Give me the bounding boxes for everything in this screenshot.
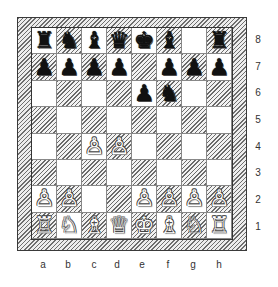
- square-a1[interactable]: ♖: [32, 213, 57, 239]
- square-g8[interactable]: [182, 28, 207, 54]
- chess-board: ♜♞♝♛♚♝♜♟♟♟♟♟♟♟♟♞♙♙♙♙♙♙♙♙♖♘♗♕♔♗♘♖: [31, 27, 233, 240]
- square-e6[interactable]: ♟: [132, 81, 157, 107]
- white-rook-icon[interactable]: ♖: [209, 213, 230, 236]
- white-pawn-icon[interactable]: ♙: [184, 187, 205, 210]
- rank-label-3: 3: [252, 167, 264, 178]
- square-b7[interactable]: ♟: [57, 54, 82, 80]
- square-f7[interactable]: ♟: [157, 54, 182, 80]
- black-rook-icon[interactable]: ♜: [209, 29, 230, 52]
- square-d2[interactable]: [107, 186, 132, 212]
- square-d5[interactable]: [107, 107, 132, 133]
- white-knight-icon[interactable]: ♘: [59, 213, 80, 236]
- white-pawn-icon[interactable]: ♙: [209, 187, 230, 210]
- square-g5[interactable]: [182, 107, 207, 133]
- black-knight-icon[interactable]: ♞: [159, 81, 180, 104]
- square-b6[interactable]: [57, 81, 82, 107]
- black-king-icon[interactable]: ♚: [134, 29, 155, 52]
- square-e7[interactable]: [132, 54, 157, 80]
- square-c4[interactable]: ♙: [82, 134, 107, 160]
- square-f6[interactable]: ♞: [157, 81, 182, 107]
- square-b2[interactable]: ♙: [57, 186, 82, 212]
- square-f2[interactable]: ♙: [157, 186, 182, 212]
- white-pawn-icon[interactable]: ♙: [109, 134, 130, 157]
- black-pawn-icon[interactable]: ♟: [84, 55, 105, 78]
- square-c1[interactable]: ♗: [82, 213, 107, 239]
- square-h8[interactable]: ♜: [207, 28, 232, 54]
- square-e2[interactable]: ♙: [132, 186, 157, 212]
- square-g6[interactable]: [182, 81, 207, 107]
- square-d8[interactable]: ♛: [107, 28, 132, 54]
- square-c6[interactable]: [82, 81, 107, 107]
- square-d6[interactable]: [107, 81, 132, 107]
- black-pawn-icon[interactable]: ♟: [134, 81, 155, 104]
- square-a6[interactable]: [32, 81, 57, 107]
- square-b8[interactable]: ♞: [57, 28, 82, 54]
- square-e1[interactable]: ♔: [132, 213, 157, 239]
- black-bishop-icon[interactable]: ♝: [159, 29, 180, 52]
- black-pawn-icon[interactable]: ♟: [109, 55, 130, 78]
- square-a8[interactable]: ♜: [32, 28, 57, 54]
- square-d3[interactable]: [107, 160, 132, 186]
- black-bishop-icon[interactable]: ♝: [84, 29, 105, 52]
- white-bishop-icon[interactable]: ♗: [84, 213, 105, 236]
- square-a5[interactable]: [32, 107, 57, 133]
- white-pawn-icon[interactable]: ♙: [134, 187, 155, 210]
- square-a2[interactable]: ♙: [32, 186, 57, 212]
- rank-label-1: 1: [252, 221, 264, 232]
- square-f8[interactable]: ♝: [157, 28, 182, 54]
- square-e8[interactable]: ♚: [132, 28, 157, 54]
- white-king-icon[interactable]: ♔: [134, 213, 155, 236]
- square-b1[interactable]: ♘: [57, 213, 82, 239]
- square-h4[interactable]: [207, 134, 232, 160]
- square-a3[interactable]: [32, 160, 57, 186]
- square-f4[interactable]: [157, 134, 182, 160]
- square-h6[interactable]: [207, 81, 232, 107]
- black-pawn-icon[interactable]: ♟: [34, 55, 55, 78]
- square-g2[interactable]: ♙: [182, 186, 207, 212]
- square-b3[interactable]: [57, 160, 82, 186]
- square-e5[interactable]: [132, 107, 157, 133]
- white-rook-icon[interactable]: ♖: [34, 213, 55, 236]
- square-h7[interactable]: ♟: [207, 54, 232, 80]
- black-knight-icon[interactable]: ♞: [59, 29, 80, 52]
- square-h2[interactable]: ♙: [207, 186, 232, 212]
- square-f1[interactable]: ♗: [157, 213, 182, 239]
- square-f5[interactable]: [157, 107, 182, 133]
- black-rook-icon[interactable]: ♜: [34, 29, 55, 52]
- black-pawn-icon[interactable]: ♟: [209, 55, 230, 78]
- white-queen-icon[interactable]: ♕: [109, 213, 130, 236]
- white-pawn-icon[interactable]: ♙: [84, 134, 105, 157]
- square-a4[interactable]: [32, 134, 57, 160]
- white-pawn-icon[interactable]: ♙: [59, 187, 80, 210]
- black-pawn-icon[interactable]: ♟: [184, 55, 205, 78]
- square-b4[interactable]: [57, 134, 82, 160]
- square-g7[interactable]: ♟: [182, 54, 207, 80]
- square-f3[interactable]: [157, 160, 182, 186]
- square-d4[interactable]: ♙: [107, 134, 132, 160]
- square-d7[interactable]: ♟: [107, 54, 132, 80]
- square-a7[interactable]: ♟: [32, 54, 57, 80]
- square-g1[interactable]: ♘: [182, 213, 207, 239]
- square-d1[interactable]: ♕: [107, 213, 132, 239]
- square-c3[interactable]: [82, 160, 107, 186]
- square-h3[interactable]: [207, 160, 232, 186]
- square-c5[interactable]: [82, 107, 107, 133]
- white-knight-icon[interactable]: ♘: [184, 213, 205, 236]
- rank-label-7: 7: [252, 61, 264, 72]
- square-b5[interactable]: [57, 107, 82, 133]
- black-pawn-icon[interactable]: ♟: [59, 55, 80, 78]
- white-pawn-icon[interactable]: ♙: [159, 187, 180, 210]
- black-pawn-icon[interactable]: ♟: [159, 55, 180, 78]
- square-e4[interactable]: [132, 134, 157, 160]
- square-g3[interactable]: [182, 160, 207, 186]
- square-h1[interactable]: ♖: [207, 213, 232, 239]
- square-g4[interactable]: [182, 134, 207, 160]
- white-bishop-icon[interactable]: ♗: [159, 213, 180, 236]
- square-c2[interactable]: [82, 186, 107, 212]
- black-queen-icon[interactable]: ♛: [109, 29, 130, 52]
- white-pawn-icon[interactable]: ♙: [34, 187, 55, 210]
- square-h5[interactable]: [207, 107, 232, 133]
- square-c8[interactable]: ♝: [82, 28, 107, 54]
- square-c7[interactable]: ♟: [82, 54, 107, 80]
- square-e3[interactable]: [132, 160, 157, 186]
